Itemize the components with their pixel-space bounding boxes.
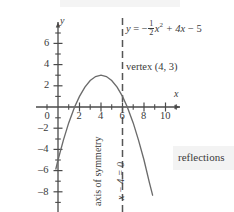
y-tick-label-6: 6	[44, 38, 49, 49]
vertex-label: vertex (4, 3)	[126, 62, 178, 73]
y-tick-label-neg8: –8	[38, 187, 49, 198]
equation-minus-term: − 5	[188, 23, 202, 34]
fraction-denominator: 2	[148, 29, 154, 37]
parabola-figure: y x 6 4 2 0 –2 –4 –6 –8 2 4 6 8 10 y = −…	[0, 0, 234, 212]
y-tick-label-neg2: –2	[38, 123, 49, 134]
x-tick-label-8: 8	[141, 111, 146, 122]
equation-sign: −	[142, 23, 148, 34]
y-tick-label-4: 4	[44, 59, 49, 70]
axis-of-symmetry-text: axis of symmetry	[92, 137, 103, 206]
y-tick-label-2: 2	[44, 80, 49, 91]
y-axis	[56, 22, 60, 212]
equation-fraction: 12	[148, 20, 154, 38]
x-tick-label-2: 2	[77, 111, 82, 122]
x-tick-label-10: 10	[160, 111, 171, 122]
caption-text: reflections	[178, 151, 224, 163]
equation-exponent: 2	[160, 21, 164, 29]
parabola-curve	[56, 75, 153, 195]
equation-equals: =	[133, 23, 139, 34]
x-tick-label-6: 6	[120, 111, 125, 122]
equation-lhs: y	[126, 23, 131, 34]
axis-of-symmetry-equation-text: x − 4 = 0	[115, 162, 126, 200]
y-tick-label-neg4: –4	[38, 144, 49, 155]
y-tick-label-neg6: –6	[38, 165, 49, 176]
y-axis-label: y	[60, 16, 64, 26]
x-axis-label: x	[174, 89, 178, 99]
equation-plus-term: + 4x	[166, 23, 186, 34]
y-tick-label-0: 0	[45, 111, 50, 122]
equation-label: y = −12x2 + 4x − 5	[126, 20, 202, 38]
x-tick-label-4: 4	[98, 111, 103, 122]
